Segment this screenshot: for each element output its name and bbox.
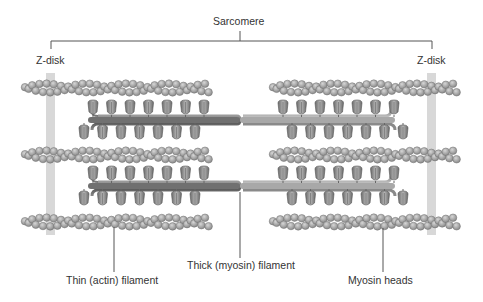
- z-disk-left-label: Z-disk: [36, 54, 65, 66]
- sarcomere-label: Sarcomere: [213, 15, 264, 27]
- thin-filament-label: Thin (actin) filament: [66, 274, 158, 286]
- z-disk-right-label: Z-disk: [417, 54, 446, 66]
- thick-filament-label: Thick (myosin) filament: [187, 259, 295, 271]
- myosin-heads-label: Myosin heads: [348, 274, 413, 286]
- sarcomere-bracket: [51, 31, 432, 49]
- sarcomere-diagram: [0, 0, 483, 302]
